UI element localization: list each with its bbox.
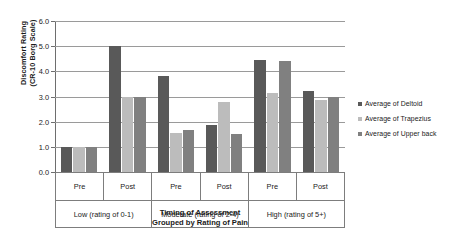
y-axis-tick-label: 1.0	[39, 142, 49, 151]
legend: Average of DeltoidAverage of TrapeziusAv…	[358, 96, 458, 141]
y-axis-tick-label: 5.0	[39, 42, 49, 51]
plot-area: 0.01.02.03.04.05.06.0	[55, 21, 345, 172]
bar	[279, 61, 291, 172]
legend-label: Average of Deltoid	[365, 100, 422, 107]
legend-item[interactable]: Average of Trapezius	[358, 111, 458, 126]
y-axis-tick-label: 3.0	[39, 92, 49, 101]
bar	[61, 147, 73, 172]
legend-swatch-icon	[358, 132, 362, 136]
legend-label: Average of Upper back	[365, 130, 436, 137]
bar	[109, 46, 121, 172]
bar	[122, 97, 134, 173]
legend-swatch-icon	[358, 117, 362, 121]
legend-item[interactable]: Average of Upper back	[358, 126, 458, 141]
category-label-timing: Post	[297, 172, 345, 200]
bar	[267, 93, 279, 172]
x-axis-title-line2: Grouped by Rating of Pain	[55, 218, 345, 228]
bar	[231, 134, 243, 172]
legend-swatch-icon	[358, 102, 362, 106]
bar	[315, 100, 327, 172]
y-axis-tick-label: 6.0	[39, 17, 49, 26]
category-axis-timing-row: PrePostPrePostPrePost	[55, 172, 345, 200]
category-label-timing: Post	[201, 172, 249, 200]
category-label-timing: Post	[104, 172, 152, 200]
bar	[158, 76, 170, 172]
bar	[218, 102, 230, 172]
bar	[134, 97, 146, 173]
category-label-timing: Pre	[152, 172, 200, 200]
legend-label: Average of Trapezius	[365, 115, 431, 122]
grouped-bar-chart: Discomfort Rating (CR-10 Borg Scale) 0.0…	[0, 0, 461, 244]
bar	[170, 133, 182, 172]
y-axis-title-line2: (CR-10 Borg Scale)	[28, 0, 37, 133]
bar	[303, 91, 315, 172]
y-axis-tick-label: 0.0	[39, 168, 49, 177]
y-axis-tick-label: 2.0	[39, 117, 49, 126]
bar	[73, 147, 85, 172]
bar	[206, 125, 218, 172]
bar	[183, 130, 195, 172]
legend-item[interactable]: Average of Deltoid	[358, 96, 458, 111]
bar	[328, 97, 340, 173]
bars-layer	[55, 21, 345, 172]
bar	[254, 60, 266, 172]
category-label-timing: Pre	[249, 172, 297, 200]
x-axis-title-line1: Timing of Assessment	[55, 208, 345, 218]
y-axis-tick-label: 4.0	[39, 67, 49, 76]
bar	[86, 147, 98, 172]
x-axis-title: Timing of Assessment Grouped by Rating o…	[55, 208, 345, 228]
category-label-timing: Pre	[55, 172, 104, 200]
y-axis-title-line1: Discomfort Rating	[19, 0, 28, 133]
